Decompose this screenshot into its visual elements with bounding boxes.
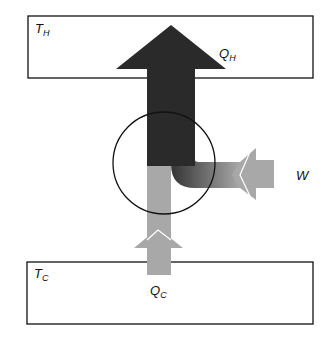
heat-in-arrowhead (134, 228, 183, 275)
heat-pump-diagram: TH QH W TC QC (0, 0, 331, 341)
hot-reservoir-label: TH (35, 21, 50, 38)
heat-out-label: QH (219, 46, 236, 63)
heat-out-arrowhead (116, 25, 226, 69)
work-label: W (296, 168, 310, 183)
hot-flow-shaft (147, 66, 195, 166)
work-in-arrow (232, 148, 274, 200)
heat-in-label: QC (150, 283, 167, 300)
cold-reservoir-label: TC (34, 266, 49, 283)
